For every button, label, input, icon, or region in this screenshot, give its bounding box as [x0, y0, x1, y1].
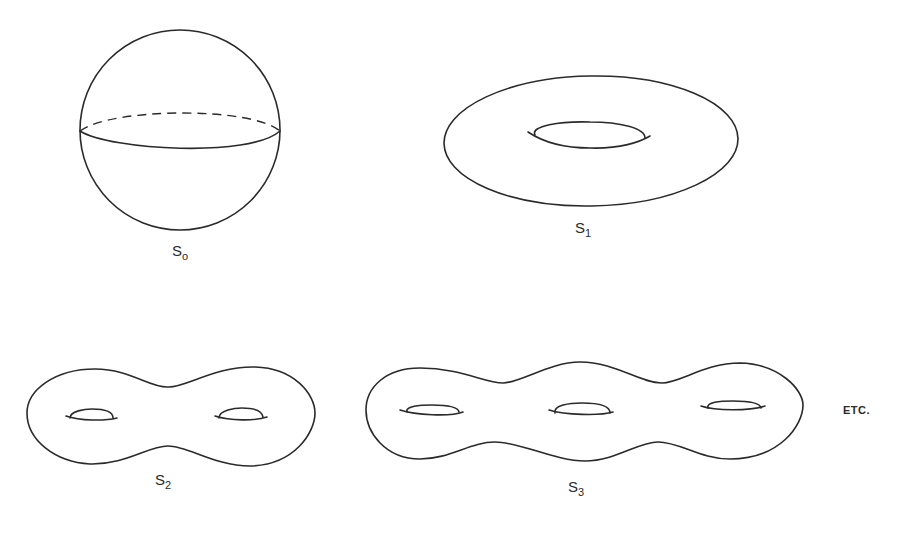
- triple-torus-figure: [366, 362, 803, 461]
- torus-label: S1: [575, 220, 591, 239]
- triple-torus-label: S3: [568, 479, 584, 498]
- label-subscript: 3: [578, 486, 584, 498]
- triple-torus-hole-3-lower: [701, 406, 765, 410]
- etc-label: ETC.: [843, 404, 870, 416]
- double-torus-hole-1-upper: [70, 409, 113, 418]
- double-torus-hole-1-lower: [66, 416, 117, 420]
- label-subscript: 2: [165, 479, 171, 491]
- double-torus-label: S2: [155, 472, 171, 491]
- double-torus-hole-2-upper: [219, 408, 263, 418]
- sphere-figure: [80, 30, 280, 230]
- torus-hole-lower: [528, 132, 650, 148]
- label-base: S: [172, 242, 182, 259]
- label-subscript: 1: [585, 227, 591, 239]
- triple-torus-hole-1-lower: [400, 410, 463, 415]
- torus-outline: [443, 73, 739, 208]
- triple-torus-hole-3-upper: [708, 401, 761, 408]
- sphere-equator-back: [80, 113, 280, 131]
- triple-torus-hole-2-upper: [555, 403, 610, 413]
- label-base: S: [155, 471, 165, 488]
- torus-hole-upper: [534, 122, 645, 138]
- label-base: S: [575, 219, 585, 236]
- triple-torus-hole-2-lower: [549, 410, 613, 414]
- double-torus-figure: [27, 367, 315, 466]
- label-subscript: o: [182, 250, 188, 262]
- sphere-equator-front: [80, 131, 280, 148]
- surfaces-diagram: [0, 0, 905, 539]
- double-torus-hole-2-lower: [215, 416, 267, 420]
- triple-torus-hole-1-upper: [407, 405, 459, 412]
- triple-torus-outline: [366, 362, 803, 461]
- label-base: S: [568, 478, 578, 495]
- sphere-outline: [80, 30, 280, 230]
- sphere-label: So: [172, 243, 188, 262]
- torus-figure: [443, 73, 739, 208]
